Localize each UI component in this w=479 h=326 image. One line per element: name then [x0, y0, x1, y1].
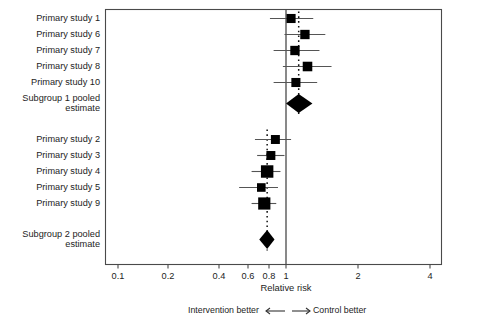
study-row-label: Primary study 2	[0, 134, 100, 145]
study-row-marker	[270, 14, 313, 23]
x-tick-label-2: 2	[338, 271, 378, 281]
footer-left-label: Intervention better	[188, 305, 259, 315]
study-row-label: Primary study 4	[0, 166, 100, 177]
study-row-marker	[274, 78, 318, 87]
study-row-label: Primary study 7	[0, 45, 100, 56]
study-row-label: Primary study 1	[0, 13, 100, 24]
footer-right-label: Control better	[313, 305, 366, 315]
study-row-marker	[252, 165, 281, 177]
x-tick-label-1: 1	[266, 271, 306, 281]
study-row-label: Primary study 10	[0, 77, 100, 88]
left-arrow-icon	[266, 308, 285, 314]
x-tick-label-0p1: 0.1	[98, 271, 138, 281]
pooled-row-label: Subgroup 1 pooled estimate	[0, 93, 100, 114]
study-row-label: Primary study 5	[0, 182, 100, 193]
pooled-row-label: Subgroup 2 pooled estimate	[0, 229, 100, 250]
study-row-label: Primary study 9	[0, 198, 100, 209]
study-row-label: Primary study 8	[0, 61, 100, 72]
x-axis-title: Relative risk	[186, 282, 386, 293]
study-row-marker	[257, 151, 284, 160]
x-tick-label-4: 4	[410, 271, 450, 281]
study-row-marker	[239, 183, 278, 192]
study-row-label: Primary study 3	[0, 150, 100, 161]
study-row-marker	[283, 62, 332, 72]
study-row-marker	[274, 46, 320, 55]
x-tick-label-0p2: 0.2	[148, 271, 188, 281]
pooled-estimate-marker	[259, 230, 274, 249]
pooled-estimate-marker	[286, 94, 312, 113]
study-row-label: Primary study 6	[0, 29, 100, 40]
study-row-marker	[284, 30, 325, 39]
right-arrow-icon	[292, 308, 310, 314]
forest-plot-figure: Primary study 1Primary study 6Primary st…	[0, 0, 479, 326]
study-row-marker	[252, 197, 277, 209]
